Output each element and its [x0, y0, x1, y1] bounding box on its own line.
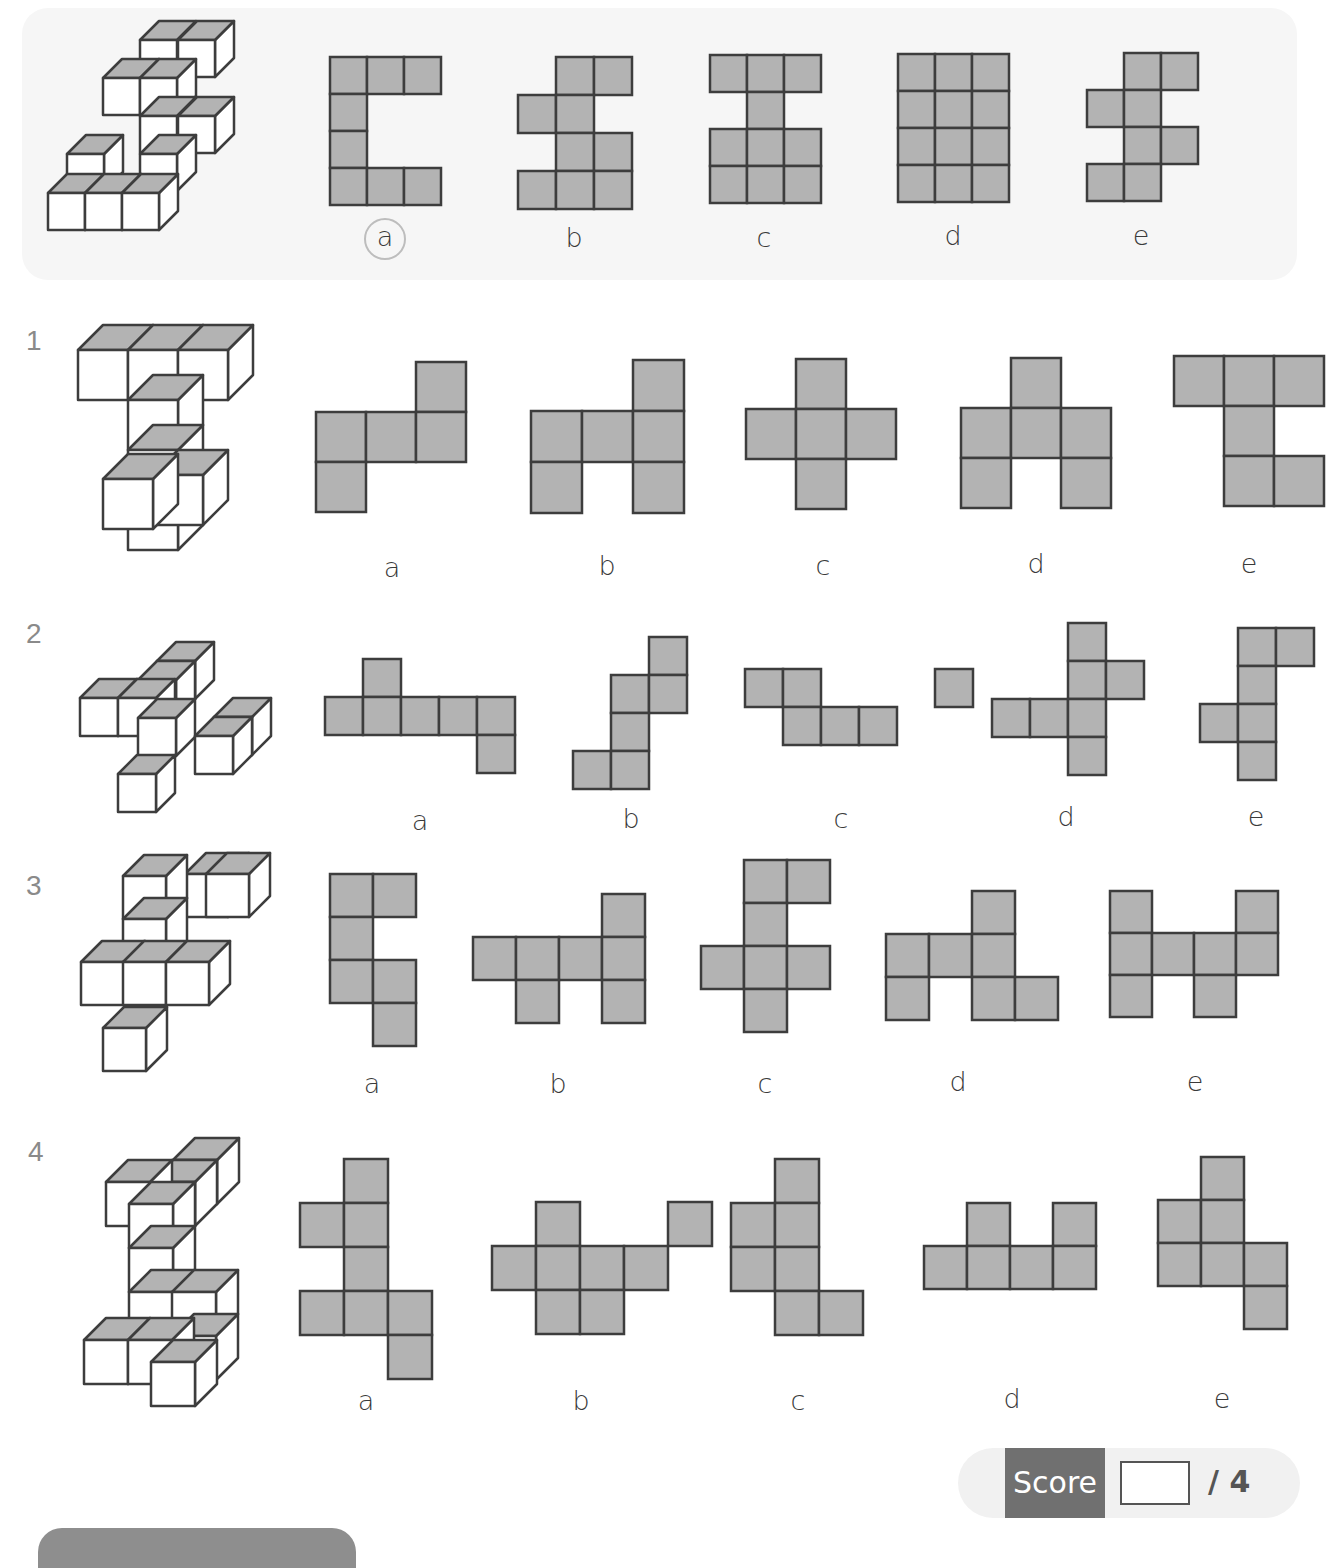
option-label-example-b[interactable]: b [565, 222, 582, 253]
net-q2-c[interactable] [745, 669, 973, 745]
option-label-q1-c[interactable]: c [816, 550, 831, 581]
option-label-q4-c[interactable]: c [791, 1385, 806, 1416]
option-label-q1-a[interactable]: a [384, 552, 401, 583]
option-label-q4-d[interactable]: d [1003, 1383, 1020, 1414]
option-label-q3-e[interactable]: e [1187, 1066, 1204, 1097]
net-q4-b[interactable] [492, 1202, 712, 1334]
option-label-q3-a[interactable]: a [364, 1068, 381, 1099]
net-q4-a[interactable] [300, 1159, 432, 1379]
net-example-e[interactable] [1087, 53, 1198, 201]
net-q1-b[interactable] [531, 360, 684, 513]
net-options [300, 53, 1324, 1379]
option-label-q1-b[interactable]: b [598, 550, 615, 581]
net-q1-d[interactable] [961, 358, 1111, 508]
question-number: 4 [28, 1136, 44, 1168]
net-q1-a[interactable] [316, 362, 466, 512]
score-total: / 4 [1208, 1464, 1250, 1499]
option-label-q2-d[interactable]: d [1057, 801, 1074, 832]
option-label-example-a[interactable]: a [364, 218, 406, 260]
net-q3-b[interactable] [473, 894, 645, 1023]
net-q3-e[interactable] [1110, 891, 1278, 1017]
option-label-q3-d[interactable]: d [949, 1066, 966, 1097]
question-number: 2 [26, 618, 42, 650]
net-q1-e[interactable] [1174, 356, 1324, 506]
net-q2-a[interactable] [325, 659, 515, 773]
net-q2-d[interactable] [992, 623, 1144, 775]
option-label-q2-b[interactable]: b [622, 803, 639, 834]
net-q4-d[interactable] [924, 1203, 1096, 1289]
net-q3-c[interactable] [701, 860, 830, 1032]
option-label-q2-e[interactable]: e [1248, 801, 1265, 832]
net-q2-e[interactable] [1200, 628, 1314, 780]
option-label-example-d[interactable]: d [944, 220, 961, 251]
option-label-q4-b[interactable]: b [572, 1385, 589, 1416]
option-label-q4-e[interactable]: e [1214, 1383, 1231, 1414]
question-number: 1 [26, 325, 42, 357]
net-q4-c[interactable] [731, 1159, 863, 1335]
question-number: 3 [26, 870, 42, 902]
net-example-b[interactable] [518, 57, 632, 209]
net-example-d[interactable] [898, 54, 1009, 202]
option-label-q1-d[interactable]: d [1027, 548, 1044, 579]
net-q2-b[interactable] [573, 637, 687, 789]
cube-illustrations [48, 21, 271, 1406]
option-label-example-e[interactable]: e [1133, 220, 1150, 251]
option-label-q3-c[interactable]: c [758, 1068, 773, 1099]
option-label-q1-e[interactable]: e [1241, 548, 1258, 579]
net-q1-c[interactable] [746, 359, 896, 509]
option-label-q2-a[interactable]: a [412, 805, 429, 836]
option-label-q2-c[interactable]: c [834, 803, 849, 834]
option-label-example-c[interactable]: c [757, 222, 772, 253]
net-q3-a[interactable] [330, 874, 416, 1046]
score-input[interactable] [1120, 1461, 1190, 1505]
option-label-q4-a[interactable]: a [358, 1385, 375, 1416]
net-example-a[interactable] [330, 57, 441, 205]
option-label-q3-b[interactable]: b [549, 1068, 566, 1099]
net-q4-e[interactable] [1158, 1157, 1287, 1329]
bottom-tab [38, 1528, 356, 1568]
net-example-c[interactable] [710, 55, 821, 203]
net-q3-d[interactable] [886, 891, 1058, 1020]
score-label: Score [1005, 1448, 1105, 1518]
